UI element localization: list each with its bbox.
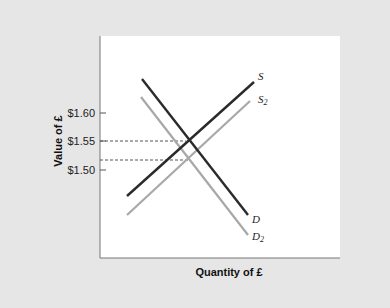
label-s: S — [258, 70, 264, 82]
tick-label-150: $1.50 — [67, 164, 95, 176]
x-axis-label: Quantity of £ — [195, 266, 262, 278]
tick-label-160: $1.60 — [67, 107, 95, 119]
label-d: D — [251, 213, 260, 225]
chart: $1.60 $1.55 $1.50 S S2 D D2 Quantity of … — [0, 0, 390, 308]
plot-area — [100, 36, 340, 258]
tick-label-155: $1.55 — [67, 135, 95, 147]
y-axis-label: Value of £ — [52, 115, 64, 166]
